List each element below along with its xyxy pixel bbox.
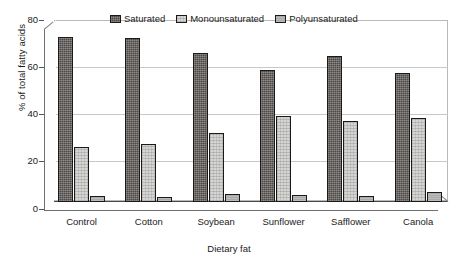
x-tick-label-canola: Canola	[381, 216, 456, 227]
bar-control-saturated	[58, 37, 73, 202]
legend-swatch-polyunsaturated	[275, 15, 286, 23]
bars-layer	[44, 20, 448, 211]
bar-group-canola	[395, 20, 442, 211]
y-tick-label-80: 80	[14, 15, 38, 25]
bar-safflower-monounsaturated	[343, 121, 358, 202]
legend-label-polyunsaturated: Polyunsaturated	[289, 13, 358, 24]
bar-group-sunflower	[260, 20, 307, 211]
bar-sunflower-saturated	[260, 70, 275, 202]
x-axis-tick-labels: ControlCottonSoybeanSunflowerSafflowerCa…	[44, 216, 448, 232]
legend-item-saturated: Saturated	[110, 13, 165, 24]
bar-soybean-saturated	[193, 53, 208, 202]
bar-control-monounsaturated	[74, 147, 89, 202]
x-axis-title: Dietary fat	[0, 243, 458, 254]
x-tick-label-control: Control	[44, 216, 119, 227]
chart-container: % of total fatty acids 80 60 40 20 0	[0, 0, 458, 263]
bar-group-soybean	[193, 20, 240, 211]
legend-item-polyunsaturated: Polyunsaturated	[275, 13, 358, 24]
bar-canola-saturated	[395, 73, 410, 202]
bar-cotton-saturated	[125, 38, 140, 202]
bar-control-polyunsaturated	[90, 196, 105, 202]
bar-cotton-monounsaturated	[141, 144, 156, 202]
bar-group-control	[58, 20, 105, 211]
y-axis-ticks: 80 60 40 20 0	[8, 0, 38, 263]
legend-swatch-monounsaturated	[176, 15, 187, 23]
bar-canola-monounsaturated	[411, 118, 426, 202]
bar-group-safflower	[327, 20, 374, 211]
y-tick-label-40: 40	[14, 109, 38, 119]
legend-label-saturated: Saturated	[124, 13, 165, 24]
bar-safflower-saturated	[327, 56, 342, 202]
y-tick-label-0: 0	[14, 204, 38, 214]
x-tick-label-sunflower: Sunflower	[246, 216, 321, 227]
chart-legend: Saturated Monounsaturated Polyunsaturate…	[110, 13, 358, 24]
x-tick-label-safflower: Safflower	[313, 216, 388, 227]
bar-cotton-polyunsaturated	[157, 197, 172, 202]
legend-label-monounsaturated: Monounsaturated	[190, 13, 264, 24]
bar-soybean-polyunsaturated	[225, 194, 240, 202]
legend-swatch-saturated	[110, 15, 121, 23]
legend-item-monounsaturated: Monounsaturated	[176, 13, 264, 24]
bar-sunflower-monounsaturated	[276, 116, 291, 202]
bar-safflower-polyunsaturated	[359, 196, 374, 202]
x-tick-label-soybean: Soybean	[179, 216, 254, 227]
x-tick-label-cotton: Cotton	[111, 216, 186, 227]
y-tick-label-20: 20	[14, 156, 38, 166]
y-tick-label-60: 60	[14, 62, 38, 72]
bar-sunflower-polyunsaturated	[292, 195, 307, 202]
bar-soybean-monounsaturated	[209, 133, 224, 202]
bar-group-cotton	[125, 20, 172, 211]
bar-canola-polyunsaturated	[427, 192, 442, 202]
